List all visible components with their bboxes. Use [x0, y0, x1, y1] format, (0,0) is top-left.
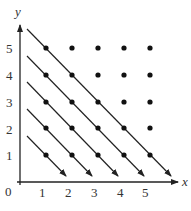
y-tick: 1: [6, 148, 13, 163]
point: [95, 125, 100, 130]
point: [121, 125, 126, 130]
point: [147, 152, 152, 157]
point: [121, 72, 126, 77]
x-tick: 2: [65, 185, 72, 200]
x-tick: 4: [117, 185, 124, 200]
point: [121, 99, 126, 104]
point: [95, 72, 100, 77]
x-tick: 3: [91, 185, 98, 200]
point: [147, 125, 152, 130]
point: [69, 45, 74, 50]
diagonal-sum-3: [27, 109, 92, 176]
lattice-diagram: y x 0 1 2 3 4 5 1 2 3 4 5: [0, 0, 191, 211]
point: [43, 99, 48, 104]
x-axis-label: x: [181, 174, 188, 189]
point: [69, 125, 74, 130]
point: [43, 152, 48, 157]
x-tick: 5: [142, 185, 149, 200]
origin-label: 0: [5, 184, 12, 199]
point: [43, 45, 48, 50]
y-tick-labels: 1 2 3 4 5: [6, 41, 13, 163]
y-tick: 4: [6, 68, 13, 83]
x-tick: 1: [39, 185, 46, 200]
point: [69, 99, 74, 104]
point: [95, 152, 100, 157]
point: [147, 99, 152, 104]
x-tick-labels: 1 2 3 4 5: [39, 185, 149, 200]
point: [95, 99, 100, 104]
point: [69, 72, 74, 77]
y-tick: 2: [6, 122, 13, 137]
y-tick: 5: [6, 41, 13, 56]
point: [121, 45, 126, 50]
point: [147, 45, 152, 50]
y-axis-label: y: [13, 4, 21, 19]
point: [121, 152, 126, 157]
point: [43, 72, 48, 77]
point: [147, 72, 152, 77]
point: [43, 125, 48, 130]
y-tick: 3: [6, 95, 13, 110]
point: [95, 45, 100, 50]
point: [69, 152, 74, 157]
